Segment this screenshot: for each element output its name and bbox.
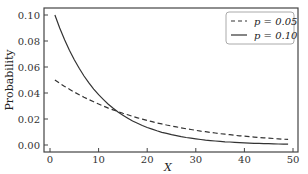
x-tick-label: 20 bbox=[141, 154, 154, 165]
y-axis-label: Probability bbox=[3, 49, 16, 111]
x-axis-label: X bbox=[163, 161, 173, 174]
y-tick-label: 0.08 bbox=[18, 36, 40, 47]
x-axis-ticks: 01020304050 bbox=[47, 148, 300, 165]
y-tick-label: 0.04 bbox=[18, 88, 40, 99]
legend-label-p005: p = 0.05 bbox=[254, 16, 297, 27]
chart: 01020304050 0.000.020.040.060.080.10 X P… bbox=[0, 0, 308, 174]
series-line-0 bbox=[55, 80, 288, 139]
y-tick-label: 0.10 bbox=[18, 10, 40, 21]
legend-label-p010: p = 0.10 bbox=[254, 30, 298, 41]
x-tick-label: 50 bbox=[287, 154, 300, 165]
legend: p = 0.05 p = 0.10 bbox=[226, 12, 298, 44]
x-tick-label: 0 bbox=[47, 154, 53, 165]
y-tick-label: 0.02 bbox=[18, 114, 40, 125]
x-tick-label: 40 bbox=[238, 154, 251, 165]
x-tick-label: 30 bbox=[189, 154, 202, 165]
x-tick-label: 10 bbox=[92, 154, 105, 165]
y-tick-label: 0.06 bbox=[18, 62, 40, 73]
y-tick-label: 0.00 bbox=[18, 140, 40, 151]
